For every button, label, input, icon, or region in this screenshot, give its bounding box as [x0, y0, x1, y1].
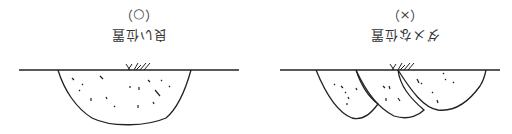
grass-icon [126, 63, 150, 70]
good-position-mark: （○） [79, 7, 199, 26]
good-position-label: 良い位置 [79, 27, 199, 46]
good-position-figure [19, 63, 239, 125]
bad-position-label: ダメな位置 [345, 27, 465, 46]
bad-basin-3 [398, 70, 486, 110]
bad-basin-2 [356, 70, 424, 118]
soil-dots [72, 76, 170, 108]
good-basin [58, 70, 191, 125]
grass-icon [390, 63, 414, 70]
soil-dots [334, 73, 454, 105]
bad-position-figure [280, 63, 500, 119]
bad-basin-1 [316, 70, 378, 119]
bad-position-mark: （×） [345, 7, 465, 26]
